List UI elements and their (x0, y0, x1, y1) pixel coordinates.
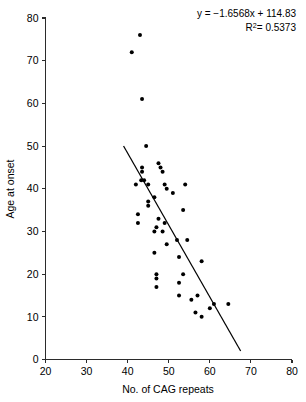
data-point (140, 165, 144, 169)
data-point (196, 293, 200, 297)
data-point (161, 170, 165, 174)
x-tick-label-70: 70 (245, 365, 257, 377)
y-tick-label-60: 60 (27, 97, 39, 109)
x-tick-label-20: 20 (40, 365, 52, 377)
data-point (163, 182, 167, 186)
data-point (140, 170, 144, 174)
data-point (152, 251, 156, 255)
data-point (181, 208, 185, 212)
y-tick-label-80: 80 (27, 12, 39, 24)
data-point (189, 298, 193, 302)
data-point (208, 306, 212, 310)
data-point (154, 225, 158, 229)
data-point (200, 259, 204, 263)
r-squared-symbol: R (246, 22, 253, 33)
r-squared-value: = 0.5373 (257, 22, 297, 33)
data-point (156, 161, 160, 165)
data-point (193, 311, 197, 315)
regression-trendline (124, 146, 241, 351)
x-tick-label-30: 30 (81, 365, 93, 377)
data-point (146, 204, 150, 208)
data-point (177, 281, 181, 285)
data-point (165, 242, 169, 246)
data-point (161, 229, 165, 233)
data-point (177, 255, 181, 259)
y-tick-label-0: 0 (33, 353, 39, 365)
y-tick-label-10: 10 (27, 311, 39, 323)
data-point (144, 144, 148, 148)
y-tick-label-70: 70 (27, 54, 39, 66)
data-point (156, 217, 160, 221)
data-point (130, 50, 134, 54)
regression-equation-text: y = −1.6568x + 114.83 (197, 8, 297, 19)
data-point (138, 33, 142, 37)
x-tick-label-80: 80 (286, 365, 298, 377)
y-tick-label-50: 50 (27, 140, 39, 152)
data-points-group (130, 33, 231, 319)
data-point (181, 272, 185, 276)
data-point (185, 238, 189, 242)
data-point (177, 293, 181, 297)
data-point (171, 191, 175, 195)
x-axis-ticks: 20304050607080 (40, 360, 298, 377)
data-point (152, 229, 156, 233)
data-point (154, 272, 158, 276)
data-point (146, 200, 150, 204)
y-axis-ticks: 01020304050607080 (27, 12, 46, 366)
annotation-group: y = −1.6568x + 114.83 R2= 0.5373 (197, 8, 297, 33)
chart-canvas: 01020304050607080 20304050607080 Age at … (0, 0, 306, 402)
data-point (140, 97, 144, 101)
scatter-plot-figure: 01020304050607080 20304050607080 Age at … (0, 0, 306, 402)
data-point (159, 165, 163, 169)
x-tick-label-40: 40 (122, 365, 134, 377)
x-tick-label-60: 60 (204, 365, 216, 377)
x-axis: 20304050607080 (40, 360, 298, 377)
data-point (136, 221, 140, 225)
data-point (165, 187, 169, 191)
x-tick-label-50: 50 (163, 365, 175, 377)
data-point (183, 182, 187, 186)
data-point (154, 285, 158, 289)
y-tick-label-20: 20 (27, 268, 39, 280)
data-point (134, 182, 138, 186)
y-tick-label-30: 30 (27, 225, 39, 237)
data-point (226, 302, 230, 306)
data-point (154, 276, 158, 280)
r-squared-text: R2= 0.5373 (246, 21, 297, 34)
y-tick-label-40: 40 (27, 182, 39, 194)
data-point (136, 212, 140, 216)
y-axis: 01020304050607080 (27, 12, 46, 366)
data-point (200, 315, 204, 319)
x-axis-title: No. of CAG repeats (122, 383, 214, 395)
y-axis-title: Age at onset (4, 159, 16, 218)
